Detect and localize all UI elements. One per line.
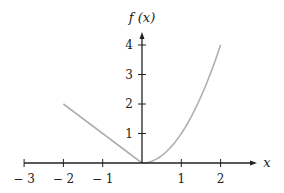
series-line-2	[142, 45, 221, 163]
x-tick-label: − 2	[53, 172, 75, 186]
axes	[24, 32, 257, 167]
piecewise-function-chart: − 3− 2− 1121234xf (x)	[0, 0, 284, 193]
y-tick-label: 3	[125, 68, 133, 82]
x-axis-label: x	[263, 155, 271, 170]
x-tick-label: 2	[217, 172, 225, 186]
x-tick-label: − 3	[13, 172, 35, 186]
x-tick-label: − 1	[92, 172, 114, 186]
y-tick-label: 2	[125, 97, 133, 111]
y-axis-label: f (x)	[128, 10, 155, 25]
y-axis-arrow-icon	[140, 32, 145, 39]
x-axis-arrow-icon	[250, 161, 257, 166]
y-tick-label: 1	[125, 127, 133, 141]
y-tick-label: 4	[125, 38, 133, 52]
x-tick-label: 1	[177, 172, 185, 186]
